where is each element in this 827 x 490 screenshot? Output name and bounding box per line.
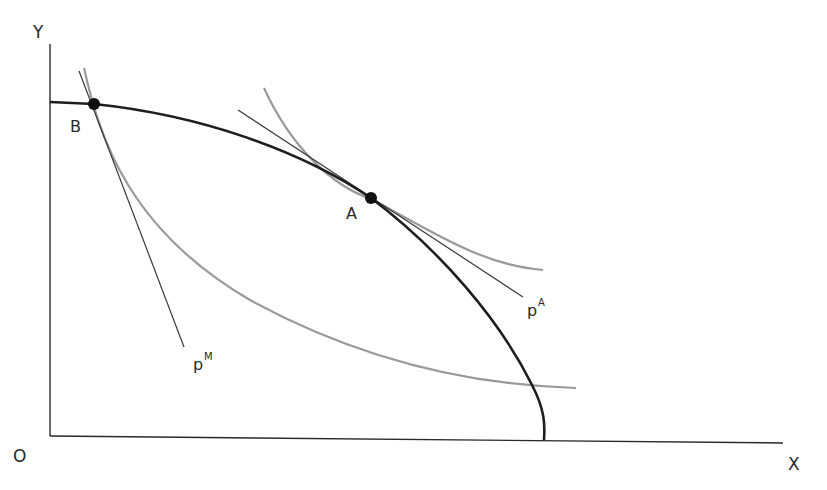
price-label-market: p M	[193, 351, 213, 374]
axes	[50, 44, 783, 443]
trade-diagram: Y O X B A p M p A	[0, 0, 827, 490]
point-b-marker	[88, 98, 100, 110]
point-b-label: B	[70, 117, 81, 136]
price-label-autarky: p A	[527, 297, 545, 320]
price-line-autarky	[238, 110, 523, 297]
point-a-label: A	[346, 204, 357, 223]
price-line-market	[79, 71, 184, 347]
x-axis-label: X	[788, 454, 800, 474]
price-label-autarky-base: p	[527, 301, 537, 320]
point-a-marker	[365, 192, 377, 204]
x-axis	[50, 436, 783, 443]
price-label-market-sup: M	[204, 351, 213, 362]
price-label-autarky-sup: A	[538, 297, 545, 308]
price-label-market-base: p	[193, 355, 203, 374]
production-possibility-frontier	[50, 102, 544, 440]
y-axis-label: Y	[32, 22, 44, 42]
indifference-curve-high	[264, 88, 543, 270]
origin-label: O	[13, 446, 26, 466]
indifference-curve-low	[84, 68, 576, 388]
